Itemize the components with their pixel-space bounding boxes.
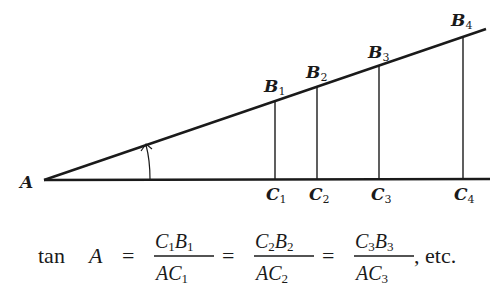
svg-text:C1B1: C1B1 [155,230,194,254]
formula-trailing: , etc. [414,243,456,268]
baseline-AC [44,179,490,180]
label-B1: B1 [263,76,285,98]
label-B3: B3 [367,42,389,64]
svg-text:AC3: AC3 [354,262,388,286]
fraction-2: C2B2 AC2 [254,230,314,286]
hypotenuse-AB [44,29,486,180]
label-C1: C1 [266,184,287,206]
formula-angle: A [87,243,103,268]
angle-arc-icon [146,145,150,179]
formula-equals-1: = [122,243,134,268]
svg-text:C2B2: C2B2 [255,230,294,254]
formula-equals-2: = [222,243,234,268]
fraction-3: C3B3 AC3 [354,230,414,286]
label-C3: C3 [371,184,392,206]
svg-text:C3B3: C3B3 [355,230,394,254]
svg-text:AC2: AC2 [254,262,288,286]
formula-equals-3: = [322,243,334,268]
fraction-1: C1B1 AC1 [154,230,214,286]
label-B4: B4 [450,10,472,32]
formula-func: tan [38,243,65,268]
label-C2: C2 [309,184,330,206]
svg-text:AC1: AC1 [154,262,188,286]
tangent-diagram: A B1 B2 B3 B4 C1 C2 C3 C4 tan A = C1B1 A… [0,0,500,291]
label-C4: C4 [454,184,475,206]
label-B2: B2 [305,62,327,84]
tangent-formula: tan A = C1B1 AC1 = C2B2 AC2 = C3B3 AC3 ,… [38,230,456,286]
vertex-label-A: A [18,172,33,192]
